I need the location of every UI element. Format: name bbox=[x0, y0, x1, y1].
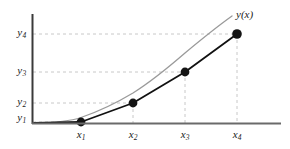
y-axis-label-y2: y2 bbox=[8, 96, 26, 107]
y-axis-label-y4: y4 bbox=[8, 27, 26, 38]
data-point-markers bbox=[77, 29, 242, 126]
plot-canvas bbox=[0, 0, 290, 149]
y-axis-label-y1: y1 bbox=[8, 112, 26, 123]
y2-subscript: 2 bbox=[22, 100, 26, 109]
x4-base: x bbox=[233, 128, 238, 140]
function-interpolation-figure: y4 y3 y2 y1 x1 x2 x3 x4 y(x) bbox=[0, 0, 290, 149]
interpolant-polyline bbox=[34, 34, 237, 123]
y-axis-label-y3: y3 bbox=[8, 65, 26, 76]
x3-subscript: 3 bbox=[186, 133, 190, 142]
data-point-2 bbox=[129, 99, 138, 108]
y4-subscript: 4 bbox=[22, 31, 26, 40]
data-point-3 bbox=[181, 68, 190, 77]
x2-subscript: 2 bbox=[134, 133, 138, 142]
x-axis-label-x3: x3 bbox=[175, 129, 195, 140]
x-axis-label-x2: x2 bbox=[123, 129, 143, 140]
horizontal-guide-lines bbox=[33, 34, 237, 122]
x3-base: x bbox=[181, 128, 186, 140]
vertical-guide-lines bbox=[81, 34, 237, 123]
x2-base: x bbox=[129, 128, 134, 140]
curve-annotation-label: y(x) bbox=[236, 9, 253, 20]
data-point-4 bbox=[232, 29, 242, 39]
y1-subscript: 1 bbox=[22, 116, 26, 125]
x4-subscript: 4 bbox=[238, 133, 242, 142]
x1-subscript: 1 bbox=[82, 133, 86, 142]
y3-subscript: 3 bbox=[22, 69, 26, 78]
x1-base: x bbox=[77, 128, 82, 140]
x-axis-label-x1: x1 bbox=[71, 129, 91, 140]
data-point-1 bbox=[77, 118, 86, 127]
x-axis-label-x4: x4 bbox=[227, 129, 247, 140]
